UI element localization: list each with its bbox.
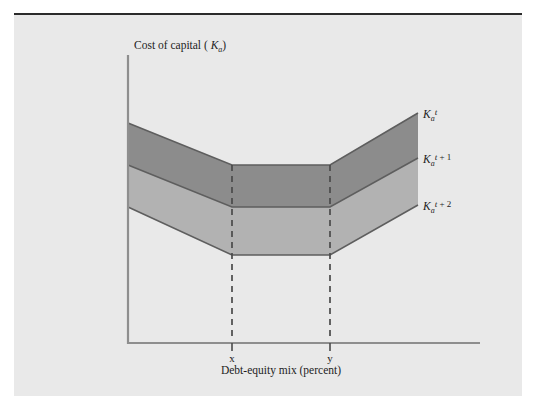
- y-axis-title-suffix: ): [222, 39, 226, 52]
- label-ka-t-plus-2-suffix: + 2: [437, 199, 451, 209]
- label-ka-t: Kat: [422, 107, 438, 123]
- tick-label-x: x: [229, 352, 235, 364]
- tick-label-y: y: [327, 352, 333, 364]
- label-ka-t-superscript: t: [435, 107, 438, 117]
- y-axis-title-prefix: Cost of capital (: [134, 39, 211, 52]
- label-ka-t-plus-1-suffix: + 1: [437, 152, 451, 162]
- label-ka-t-plus-2: Kat + 2: [422, 199, 451, 215]
- y-axis-title: Cost of capital ( Ka): [134, 39, 226, 54]
- x-axis-title: Debt-equity mix (percent): [221, 364, 341, 377]
- label-ka-t-plus-1: Kat + 1: [422, 152, 451, 168]
- cost-of-capital-chart: Cost of capital ( Ka) Debt-equity mix (p…: [0, 0, 550, 410]
